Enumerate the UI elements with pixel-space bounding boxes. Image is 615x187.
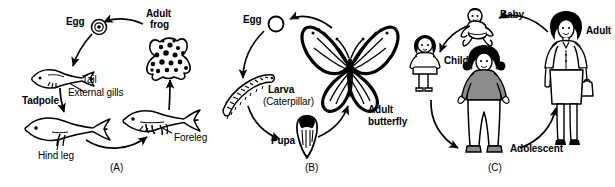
- label-baby: Baby: [500, 9, 524, 20]
- caption-panel-b: (B): [305, 162, 318, 173]
- label-hind-leg: Hind leg: [38, 150, 74, 161]
- label-pupa: Pupa: [271, 135, 295, 146]
- label-egg-a: Egg: [66, 16, 85, 27]
- label-adult-butterfly-line1: Adult: [368, 104, 393, 115]
- label-tadpole: Tadpole: [22, 95, 59, 106]
- label-adult-frog-line1: Adult: [146, 8, 171, 19]
- panel-butterfly-life-cycle: Egg Larva (Caterpillar) Pupa Adult butte…: [205, 0, 400, 187]
- label-adolescent: Adolescent: [510, 143, 563, 154]
- panel-human-life-cycle: Baby Child Adolescent Adult (C): [400, 0, 615, 187]
- monarch-butterfly-art: [302, 27, 398, 111]
- caption-panel-c: (C): [488, 162, 502, 173]
- standing-child-art: [410, 35, 440, 91]
- label-adult-human: Adult: [586, 25, 611, 36]
- spotted-frog-art: [147, 38, 190, 80]
- label-child: Child: [444, 55, 469, 66]
- label-egg-b: Egg: [243, 14, 262, 25]
- label-tail: Tail: [82, 74, 97, 85]
- label-adult-frog-line2: frog: [150, 19, 169, 30]
- panel-c-arrows: [400, 0, 615, 187]
- label-larva: Larva: [268, 84, 294, 95]
- panel-b-arrows: [205, 0, 400, 187]
- chrysalis-art: [297, 116, 317, 158]
- caption-panel-a: (A): [110, 162, 123, 173]
- life-cycle-figure: Egg Adult frog Tail External gills Tadpo…: [0, 0, 615, 187]
- label-caterpillar-alt: (Caterpillar): [263, 96, 314, 107]
- egg-hollow-circle-art: [269, 17, 284, 32]
- panel-frog-life-cycle: Egg Adult frog Tail External gills Tadpo…: [0, 0, 205, 187]
- label-foreleg: Foreleg: [174, 132, 207, 143]
- tadpole-hind-legs-art: [25, 118, 110, 146]
- label-external-gills: External gills: [68, 87, 123, 98]
- egg-concentric-circle-art: [92, 20, 107, 35]
